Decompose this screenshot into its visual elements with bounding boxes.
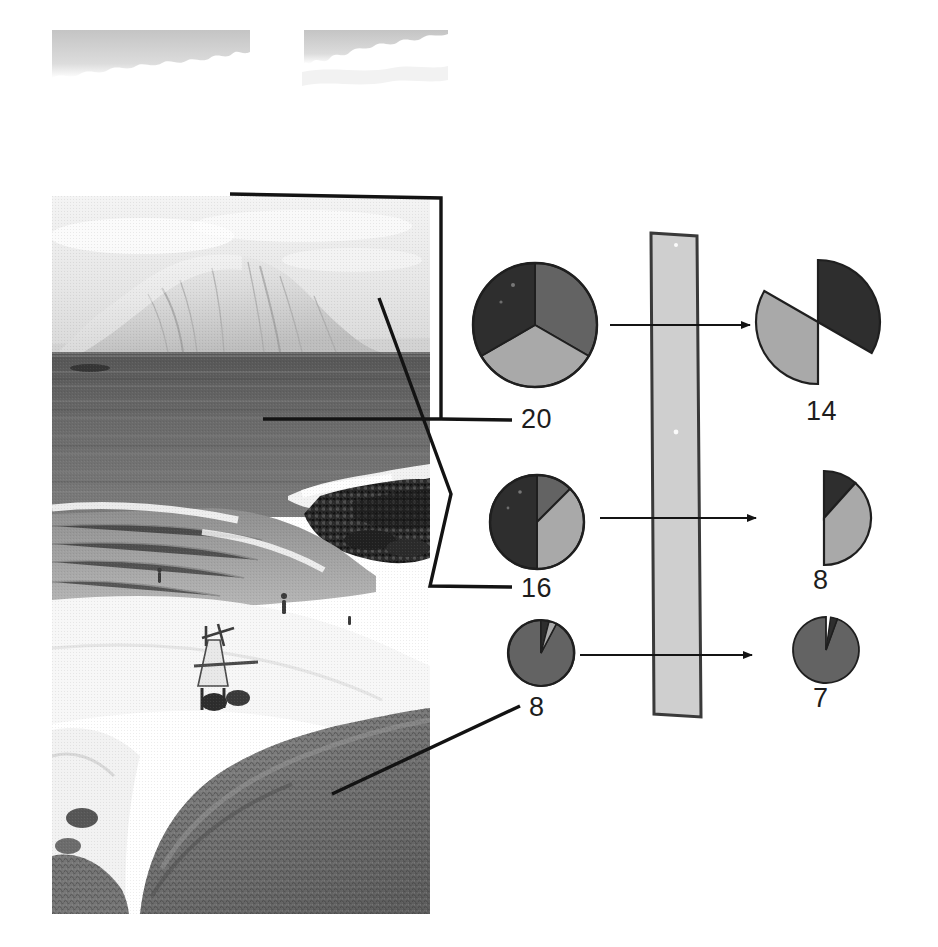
figure-canvas: 20 16 8 14 8 7 [0,0,938,947]
pie-label-left-16: 16 [521,575,552,602]
scan-cloud-band [52,30,448,92]
pie-label-left-8: 8 [529,694,545,721]
pie-chart-right-8 [824,471,871,565]
flow-arrows [580,325,756,655]
coastal-photograph [52,196,430,914]
pie-label-left-20: 20 [521,406,552,433]
pie-label-right-7: 7 [813,685,829,712]
pie-label-right-14: 14 [806,398,837,425]
pie-label-right-8: 8 [813,567,829,594]
pie-chart-right-14 [756,260,880,384]
pie-chart-left-16 [490,475,584,569]
pie-chart-left-20 [473,263,597,387]
pie-chart-left-8 [508,620,575,686]
pie-chart-right-7 [793,617,859,683]
filter-bar [651,233,701,717]
